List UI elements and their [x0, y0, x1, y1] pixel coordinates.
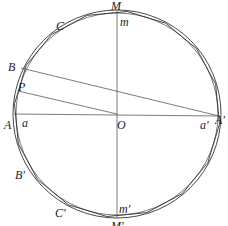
label-m-prime: m' [119, 202, 131, 216]
geometry-diagram: M m C B P A a O a' A' B' C' m' M' [0, 0, 228, 226]
label-a-prime: a' [200, 118, 209, 132]
label-P: P [17, 80, 26, 94]
label-a: a [22, 116, 28, 130]
label-A-prime: A' [214, 113, 225, 127]
label-O: O [117, 118, 126, 132]
label-C-prime: C' [55, 206, 66, 220]
label-B-prime: B' [15, 168, 25, 182]
label-m: m [120, 15, 129, 29]
label-M: M [110, 0, 122, 13]
segment-P-O [18, 91, 117, 114]
label-M-prime: M' [110, 219, 124, 226]
chord-B-Aprime [21, 68, 219, 116]
label-B: B [8, 60, 16, 74]
label-A: A [3, 118, 12, 132]
label-C: C [56, 19, 65, 33]
